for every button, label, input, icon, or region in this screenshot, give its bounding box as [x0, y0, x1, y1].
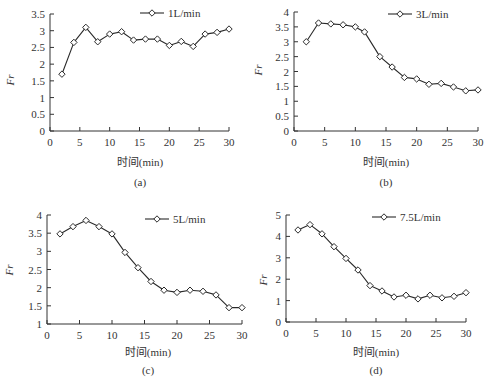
diamond-marker-icon: [438, 80, 444, 86]
axes: 012345051015202530: [276, 209, 473, 339]
diamond-marker-icon: [403, 292, 409, 298]
x-tick-label: 0: [44, 329, 50, 341]
y-tick-label: 2: [40, 58, 46, 70]
y-tick-label: 3: [276, 252, 282, 264]
diamond-marker-icon: [413, 76, 419, 82]
legend-label: 7.5L/min: [400, 211, 441, 223]
axes: 00.511.522.533.5051015202530: [31, 8, 235, 148]
diamond-marker-icon: [379, 288, 385, 294]
diamond-marker-icon: [174, 289, 180, 295]
diamond-marker-icon: [200, 288, 206, 294]
y-tick-label: 2: [276, 273, 282, 285]
diamond-marker-icon: [57, 231, 63, 237]
legend: 7.5L/min: [372, 211, 441, 223]
y-tick-label: 1.5: [31, 75, 45, 87]
diamond-marker-icon: [178, 38, 184, 44]
x-axis-title: 时间(min): [125, 346, 172, 359]
x-axis-title: 时间(min): [353, 346, 400, 359]
y-tick-label: 2.5: [28, 264, 42, 276]
data-series: [303, 20, 481, 94]
legend-diamond-icon: [381, 214, 387, 220]
legend-label: 3L/min: [416, 8, 449, 20]
x-tick-label: 15: [134, 136, 146, 148]
x-tick-label: 25: [194, 136, 206, 148]
legend-label: 1L/min: [168, 7, 201, 19]
y-axis-title: Fr: [3, 264, 15, 277]
x-axis-title: 时间(min): [363, 156, 410, 169]
x-axis-title: 时间(min): [117, 156, 164, 169]
y-axis-title: Fr: [252, 64, 264, 77]
diamond-marker-icon: [439, 295, 445, 301]
y-tick-label: 4: [284, 6, 290, 18]
x-tick-label: 5: [313, 327, 319, 339]
panel-label: (a): [134, 176, 147, 189]
x-tick-label: 15: [381, 136, 393, 148]
legend-diamond-icon: [397, 11, 403, 17]
y-tick-label: 2: [37, 282, 43, 294]
y-tick-label: 3.5: [28, 227, 42, 239]
x-tick-label: 20: [164, 136, 176, 148]
legend-diamond-icon: [154, 216, 160, 222]
diamond-marker-icon: [475, 87, 481, 93]
series-line: [306, 23, 478, 91]
y-tick-label: 3.5: [275, 21, 289, 33]
y-tick-label: 4: [276, 230, 282, 242]
x-tick-label: 15: [371, 327, 383, 339]
diamond-marker-icon: [427, 292, 433, 298]
panel-label: (d): [370, 364, 383, 377]
diamond-marker-icon: [340, 22, 346, 28]
diamond-marker-icon: [142, 36, 148, 42]
diamond-marker-icon: [214, 29, 220, 35]
diamond-marker-icon: [352, 24, 358, 30]
y-tick-label: 1: [284, 95, 290, 107]
data-series: [59, 24, 232, 77]
diamond-marker-icon: [426, 81, 432, 87]
panel-label: (c): [142, 364, 155, 377]
diamond-marker-icon: [463, 88, 469, 94]
y-tick-label: 1: [40, 92, 46, 104]
x-tick-label: 30: [473, 136, 484, 148]
y-tick-label: 3: [40, 25, 46, 37]
axes: 11.522.533.54051015202530: [28, 209, 248, 341]
y-tick-label: 0.5: [275, 110, 289, 122]
x-tick-label: 25: [204, 329, 216, 341]
diamond-marker-icon: [130, 37, 136, 43]
diamond-marker-icon: [463, 289, 469, 295]
x-tick-label: 30: [237, 329, 249, 341]
y-tick-label: 3: [37, 245, 43, 257]
y-tick-label: 2.5: [31, 41, 45, 53]
legend: 5L/min: [145, 213, 206, 225]
diamond-marker-icon: [226, 26, 232, 32]
figure-svg: 00.511.522.533.5051015202530Fr时间(min)(a)…: [0, 0, 484, 380]
figure-container: 00.511.522.533.5051015202530Fr时间(min)(a)…: [0, 0, 484, 380]
y-tick-label: 3.5: [31, 8, 45, 20]
y-tick-label: 2: [284, 66, 290, 78]
diamond-marker-icon: [118, 29, 124, 35]
diamond-marker-icon: [59, 71, 65, 77]
diamond-marker-icon: [106, 31, 112, 37]
y-tick-label: 0: [276, 316, 282, 328]
x-tick-label: 10: [350, 136, 362, 148]
y-axis-title: Fr: [257, 274, 269, 287]
x-tick-label: 25: [442, 136, 454, 148]
diamond-marker-icon: [391, 294, 397, 300]
x-tick-label: 0: [283, 327, 289, 339]
y-tick-label: 0.5: [31, 108, 45, 120]
legend: 1L/min: [140, 7, 201, 19]
diamond-marker-icon: [154, 36, 160, 42]
y-tick-label: 2.5: [275, 51, 289, 63]
y-tick-label: 0: [284, 125, 290, 137]
subplot-b: 00.511.522.533.54051015202530Fr时间(min)(b…: [252, 6, 484, 189]
y-tick-label: 3: [284, 36, 290, 48]
diamond-marker-icon: [83, 217, 89, 223]
x-tick-label: 20: [401, 327, 413, 339]
data-series: [57, 217, 245, 311]
diamond-marker-icon: [303, 39, 309, 45]
x-tick-label: 5: [77, 329, 83, 341]
diamond-marker-icon: [451, 293, 457, 299]
diamond-marker-icon: [361, 29, 367, 35]
x-tick-label: 30: [461, 327, 473, 339]
axes: 00.511.522.533.54051015202530: [275, 6, 484, 148]
panel-label: (b): [380, 176, 393, 189]
diamond-marker-icon: [166, 42, 172, 48]
